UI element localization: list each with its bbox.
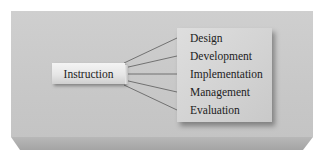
phase-management: Management <box>190 85 250 99</box>
phase-design: Design <box>190 31 223 45</box>
connector-management <box>124 80 177 92</box>
connector-evaluation <box>124 85 177 110</box>
phase-implementation: Implementation <box>190 67 263 81</box>
phases-panel: Design Development Implementation Manage… <box>177 28 272 122</box>
connector-design <box>124 38 177 63</box>
instruction-label: Instruction <box>64 68 114 80</box>
instruction-box: Instruction <box>52 63 125 84</box>
connector-development <box>124 56 177 68</box>
phase-development: Development <box>190 49 252 63</box>
phase-evaluation: Evaluation <box>190 103 240 117</box>
connector-lines <box>0 0 324 159</box>
